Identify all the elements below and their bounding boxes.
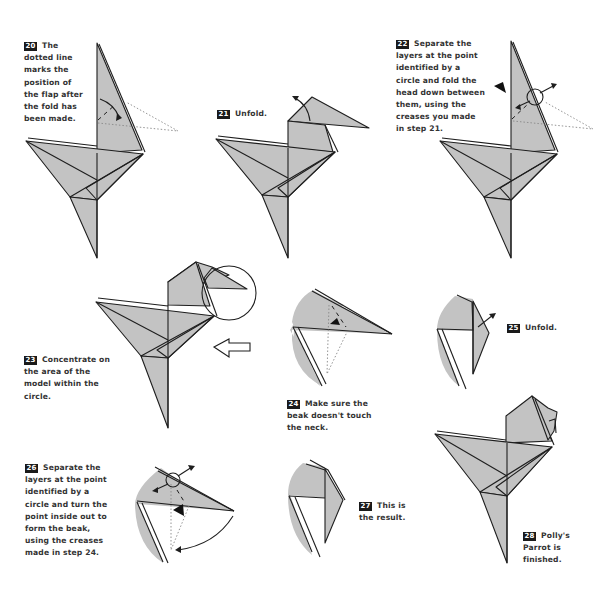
step-instruction: Separate the layers at the point identif… — [25, 463, 107, 557]
step-25-diagram — [437, 295, 496, 389]
step-24-text: 24Make sure the beak doesn't touch the n… — [287, 398, 387, 435]
step-24-diagram — [290, 289, 392, 386]
step-instruction: Unfold. — [235, 109, 267, 118]
step-number-badge: 26 — [25, 464, 38, 473]
step-number-badge: 24 — [287, 400, 300, 409]
step-number-badge: 25 — [507, 324, 520, 333]
step-number-badge: 20 — [24, 42, 37, 51]
step-20-text: 20The dotted line marks the position of … — [24, 40, 86, 125]
step-25-text: 25Unfold. — [507, 322, 577, 334]
step-27-text: 27This is the result. — [359, 500, 407, 524]
step-23-diagram — [96, 262, 256, 428]
step-number-badge: 22 — [396, 40, 409, 49]
step-instruction: The dotted line marks the position of th… — [24, 41, 83, 123]
step-21-diagram — [216, 96, 369, 258]
step-27-diagram — [288, 460, 345, 557]
step-instruction: Unfold. — [525, 323, 557, 332]
step-number-badge: 28 — [523, 532, 536, 541]
step-22-text: 22Separate the layers at the point ident… — [396, 38, 486, 136]
step-23-text: 23Concentrate on the area of the model w… — [24, 354, 112, 403]
step-number-badge: 23 — [24, 356, 37, 365]
step-26-diagram — [135, 465, 234, 563]
step-28-text: 28Polly's Parrot is finished. — [523, 530, 573, 567]
step-26-text: 26Separate the layers at the point ident… — [25, 462, 115, 560]
step-instruction: Separate the layers at the point identif… — [396, 39, 485, 133]
step-21-text: 21Unfold. — [217, 108, 287, 120]
step-number-badge: 27 — [359, 502, 372, 511]
step-number-badge: 21 — [217, 110, 230, 119]
